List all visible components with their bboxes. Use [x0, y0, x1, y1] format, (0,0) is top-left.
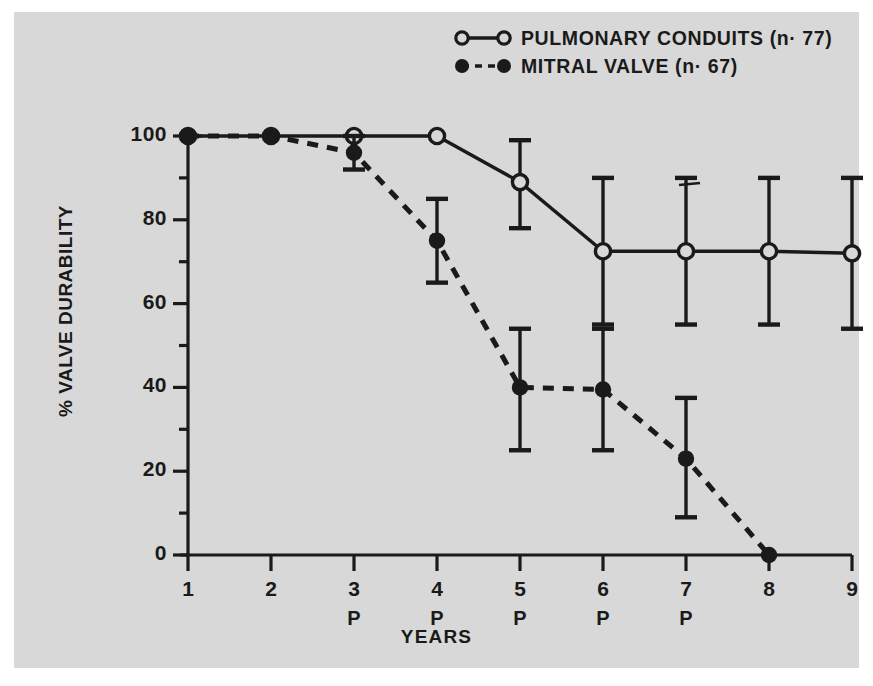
data-point-open-circle-7 [761, 244, 776, 259]
y-tick-label-100: 100 [107, 122, 167, 146]
x-tick-sublabel-6: P [583, 607, 623, 630]
data-point-filled-circle-3 [429, 233, 445, 249]
x-tick-sublabel-4: P [417, 607, 457, 630]
data-point-open-circle-4 [512, 174, 527, 189]
x-tick-label-3: 3 [334, 577, 374, 601]
x-tick-label-9: 9 [832, 577, 872, 601]
x-tick-label-7: 7 [666, 577, 706, 601]
figure-canvas: PULMONARY CONDUITS (n· 77) MITRAL VALVE … [0, 0, 873, 686]
y-tick-label-0: 0 [107, 541, 167, 565]
x-tick-label-1: 1 [168, 577, 208, 601]
data-point-filled-circle-4 [512, 379, 528, 395]
x-tick-label-5: 5 [500, 577, 540, 601]
data-point-filled-circle-2 [346, 145, 362, 161]
data-point-open-circle-3 [429, 128, 444, 143]
scan-artifact-mark [679, 183, 700, 185]
x-tick-label-6: 6 [583, 577, 623, 601]
x-tick-label-2: 2 [251, 577, 291, 601]
data-point-filled-circle-1 [263, 128, 279, 144]
data-point-filled-circle-5 [595, 381, 611, 397]
x-tick-sublabel-5: P [500, 607, 540, 630]
y-tick-label-40: 40 [107, 373, 167, 397]
data-point-filled-circle-0 [180, 128, 196, 144]
y-tick-label-20: 20 [107, 457, 167, 481]
x-tick-sublabel-3: P [334, 607, 374, 630]
x-tick-label-4: 4 [417, 577, 457, 601]
y-tick-label-60: 60 [107, 290, 167, 314]
axis-lines [173, 136, 852, 571]
data-series-layer [180, 128, 863, 563]
series-line-1 [188, 136, 769, 555]
data-point-open-circle-6 [678, 244, 693, 259]
data-point-open-circle-5 [595, 244, 610, 259]
data-point-open-circle-8 [844, 246, 859, 261]
y-tick-label-80: 80 [107, 206, 167, 230]
data-point-filled-circle-7 [761, 547, 777, 563]
series-pulmonary-conduits [180, 128, 863, 328]
x-tick-sublabel-7: P [666, 607, 706, 630]
x-tick-label-8: 8 [749, 577, 789, 601]
data-point-filled-circle-6 [678, 450, 694, 466]
